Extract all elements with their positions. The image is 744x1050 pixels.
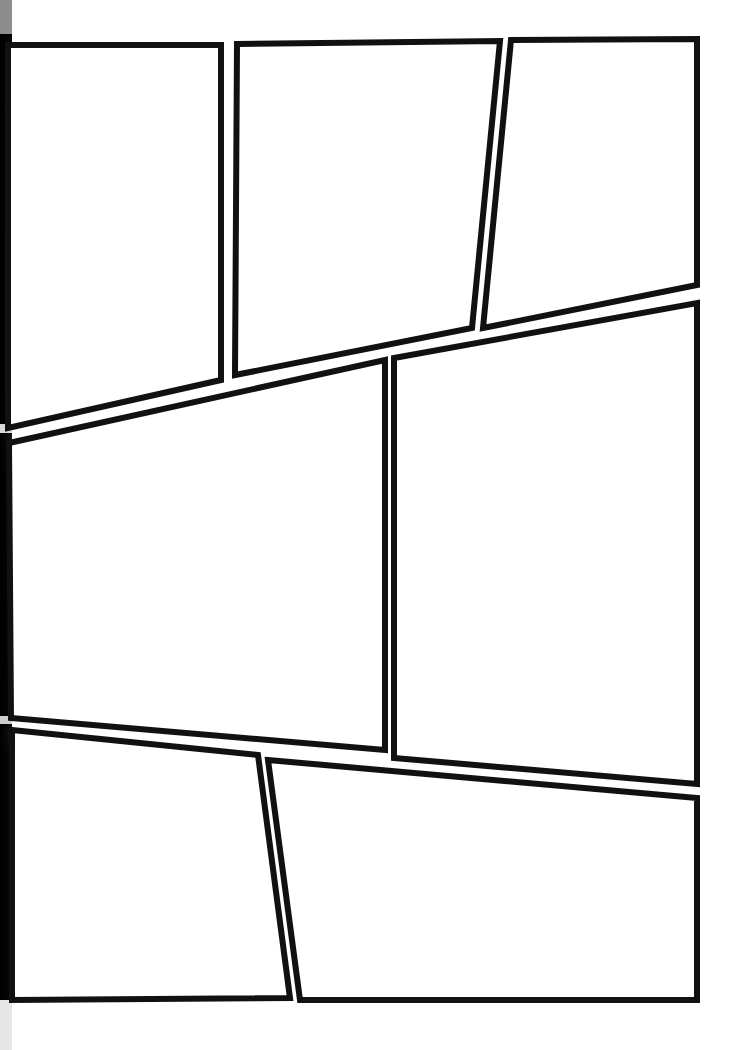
panel-3[interactable]: [483, 39, 697, 328]
panel-7[interactable]: [268, 760, 697, 1000]
comic-page-canvas: [0, 0, 744, 1050]
comic-page: [0, 0, 744, 1050]
panel-group: [8, 39, 697, 1000]
panel-5[interactable]: [394, 303, 697, 784]
panel-2[interactable]: [235, 41, 500, 375]
panel-6[interactable]: [12, 730, 290, 1000]
panel-1[interactable]: [8, 45, 221, 428]
